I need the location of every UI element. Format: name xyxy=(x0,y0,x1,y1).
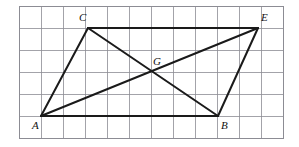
geometry-figure: ABCEG xyxy=(0,0,299,147)
vertex-label-B: B xyxy=(221,120,228,131)
vertex-label-C: C xyxy=(79,12,86,23)
figure-canvas xyxy=(0,0,299,147)
vertex-label-E: E xyxy=(261,12,268,23)
vertex-label-G: G xyxy=(153,56,161,67)
vertex-label-A: A xyxy=(32,120,39,131)
